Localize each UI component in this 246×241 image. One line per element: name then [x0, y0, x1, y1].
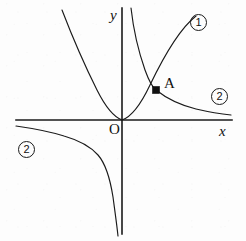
curve-2-label-quadrant-1: 2	[211, 88, 228, 105]
point-a-marker	[153, 87, 160, 94]
curve-1-label: 1	[190, 14, 207, 31]
curve-parabola	[62, 10, 196, 120]
math-figure: y x O A 1 2 2	[0, 0, 246, 241]
origin-label: O	[109, 122, 120, 137]
y-axis-label: y	[110, 8, 117, 23]
curve-2-label-quadrant-3: 2	[18, 141, 35, 158]
x-axis-label: x	[219, 124, 226, 139]
point-a-label: A	[164, 76, 175, 91]
graph-canvas	[0, 0, 246, 241]
